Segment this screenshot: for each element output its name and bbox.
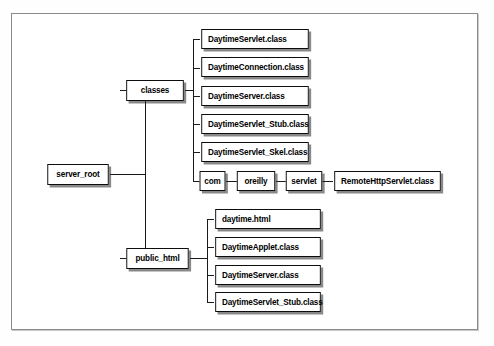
node-label: DaytimeServlet.class (208, 35, 287, 44)
node-server-root-label: server_root (56, 170, 99, 179)
node-daytime-servlet-skel-class[interactable]: DaytimeServlet_Skel.class (201, 142, 309, 162)
connector-public-child-1 (207, 219, 214, 220)
connector-servlet-to-remote (322, 181, 333, 182)
node-label: DaytimeApplet.class (222, 243, 299, 252)
connector-classes-out (185, 90, 193, 91)
node-servlet-label: servlet (291, 177, 316, 186)
connector-public-html-trunk (207, 219, 208, 302)
node-label: DaytimeConnection.class (208, 63, 304, 72)
node-public-html-label: public_html (135, 254, 179, 263)
connector-public-child-4 (207, 302, 214, 303)
node-daytime-applet-class[interactable]: DaytimeApplet.class (215, 237, 321, 257)
connector-public-child-2 (207, 247, 214, 248)
connector-com-to-oreilly (226, 181, 237, 182)
node-daytime-connection-class[interactable]: DaytimeConnection.class (201, 57, 309, 77)
node-label: daytime.html (222, 215, 271, 224)
node-label: DaytimeServlet_Stub.class (222, 298, 323, 307)
connector-classes-child-3 (193, 96, 200, 97)
connector-public-html-out (190, 258, 207, 259)
connector-classes-child-1 (193, 39, 200, 40)
node-public-html[interactable]: public_html (126, 248, 188, 269)
node-daytime-servlet-class[interactable]: DaytimeServlet.class (201, 29, 309, 49)
node-classes[interactable]: classes (126, 80, 184, 101)
node-oreilly-label: oreilly (244, 177, 267, 186)
diagram-canvas: server_root classes public_html DaytimeS… (0, 0, 494, 346)
node-server-root[interactable]: server_root (47, 164, 108, 185)
connector-classes-child-4 (193, 124, 200, 125)
node-label: DaytimeServer.class (222, 271, 299, 280)
node-public-daytime-server-class[interactable]: DaytimeServer.class (215, 265, 321, 285)
connector-main-trunk (145, 90, 146, 258)
node-daytime-server-class[interactable]: DaytimeServer.class (201, 86, 309, 106)
connector-classes-child-2 (193, 68, 200, 69)
node-public-daytime-servlet-stub-class[interactable]: DaytimeServlet_Stub.class (215, 292, 321, 312)
node-daytime-html[interactable]: daytime.html (215, 209, 321, 229)
node-oreilly[interactable]: oreilly (237, 171, 275, 191)
node-label: DaytimeServlet_Skel.class (208, 148, 307, 157)
node-daytime-servlet-stub-class[interactable]: DaytimeServlet_Stub.class (201, 114, 309, 134)
connector-public-child-3 (207, 275, 214, 276)
connector-classes-child-5 (193, 152, 200, 153)
connector-root-to-trunk (110, 174, 145, 175)
connector-classes-trunk (193, 39, 194, 181)
node-com-label: com (204, 177, 220, 186)
node-remote-http-servlet-label: RemoteHttpServlet.class (341, 177, 434, 186)
node-servlet[interactable]: servlet (286, 171, 322, 191)
connector-oreilly-to-servlet (276, 181, 286, 182)
node-label: DaytimeServer.class (208, 92, 285, 101)
node-label: DaytimeServlet_Stub.class (208, 120, 309, 129)
node-com[interactable]: com (200, 171, 226, 191)
node-classes-label: classes (141, 86, 170, 95)
node-remote-http-servlet-class[interactable]: RemoteHttpServlet.class (334, 171, 441, 191)
